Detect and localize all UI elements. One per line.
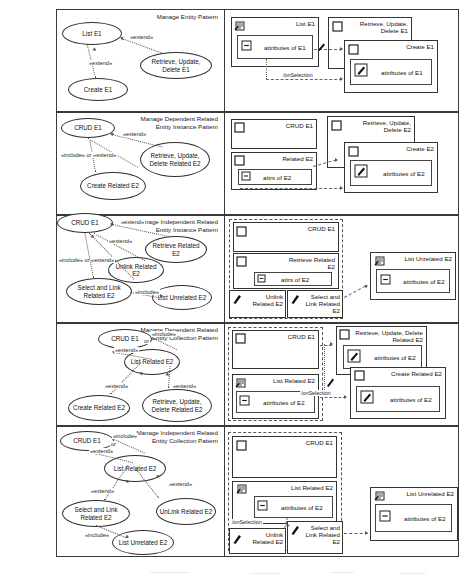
- relation-label-text: or: [111, 441, 116, 447]
- usecase-crud-e1[interactable]: CRUD E1: [61, 118, 115, 138]
- edit-icon[interactable]: [347, 349, 361, 363]
- window-title: Create Related E2: [391, 370, 442, 377]
- checkbox-icon[interactable]: [354, 370, 365, 381]
- usecase-list-unrelated-e2[interactable]: List Unrelated E2: [112, 530, 174, 555]
- relation-label-include: «include»: [84, 532, 110, 538]
- relation-label-text: «include»: [152, 331, 176, 337]
- relation-label-text: «extend»: [123, 131, 146, 137]
- row-2-caption-line1: Manage Dependent Related: [141, 115, 218, 122]
- window-title: Retrieve Related E2: [287, 256, 335, 270]
- field-label: attributes of E2: [403, 278, 445, 285]
- collapse-icon[interactable]: [380, 274, 391, 285]
- checkbox-icon[interactable]: [234, 155, 245, 166]
- edit-icon[interactable]: [354, 164, 368, 178]
- arrow-head: [340, 77, 343, 81]
- window-title: Select and Link Related E2: [304, 524, 340, 546]
- row-1-caption-line1: Manage Entity Pattern: [157, 13, 218, 20]
- usecase-label: CRUD E1: [71, 219, 99, 226]
- relation-label-extend: «extend»: [120, 219, 145, 225]
- usecase-retrieve-update-delete-e1[interactable]: Retrieve, Update, Delete E1: [140, 52, 212, 79]
- usecase-select-and-link-related-e2[interactable]: Select and Link Related E2: [66, 278, 132, 305]
- collapse-icon[interactable]: [379, 510, 391, 522]
- checkbox-icon[interactable]: [348, 146, 359, 157]
- usecase-create-related-e2[interactable]: Create Related E2: [68, 395, 130, 421]
- usecase-label: UnLink Related E2: [160, 508, 213, 515]
- relation-label-text: «extend»: [121, 219, 144, 225]
- usecase-select-and-link-related-e2[interactable]: Select and Link Related E2: [62, 500, 130, 527]
- field-label: attributes of E1: [264, 44, 306, 51]
- relation-label-text: «extend»: [90, 448, 113, 454]
- row-1-caption: Manage Entity Pattern: [120, 13, 218, 21]
- checkbox-icon[interactable]: [236, 226, 247, 237]
- checkbox-icon[interactable]: [236, 256, 247, 267]
- collapse-icon[interactable]: [241, 40, 252, 51]
- field-label: attrs of E2: [281, 276, 309, 283]
- onselection-label: /onSelection: [231, 519, 263, 525]
- usecase-label: CRUD E1: [111, 335, 139, 342]
- arrow-head: [340, 186, 343, 190]
- checkbox-icon[interactable]: [236, 440, 247, 451]
- edit-icon: [232, 293, 242, 304]
- relation-label-text: «extend»: [91, 488, 114, 494]
- field-label: attributes of E2: [390, 396, 432, 403]
- usecase-create-e1[interactable]: Create E1: [68, 78, 128, 101]
- window-title: List Related E2: [291, 484, 333, 491]
- usecase-label: Retrieve, Update, Delete Related E2: [143, 152, 207, 167]
- collapse-icon[interactable]: [239, 395, 250, 406]
- checkbox-icon[interactable]: [332, 21, 343, 32]
- collapse-icon[interactable]: [257, 274, 266, 283]
- usecase-label: Select and Link Related E2: [65, 506, 127, 521]
- arrow-head: [165, 372, 169, 375]
- usecase-list-e1[interactable]: List E1: [62, 22, 122, 45]
- arrow-head: [365, 531, 368, 535]
- row-1-divider: [224, 9, 225, 112]
- flow-list-to-rud-h: [320, 345, 332, 346]
- window-title: Unlink Related E2: [247, 293, 283, 307]
- checkbox-icon[interactable]: [234, 122, 245, 133]
- checkbox-icon[interactable]: [235, 333, 246, 344]
- window-crud-e1[interactable]: CRUD E1: [232, 436, 337, 478]
- arrow-head: [160, 294, 163, 298]
- row-5-caption-line1: Manage Independent Related: [136, 429, 218, 436]
- usecase-retrieve-related-e2[interactable]: Retrieve Related E2: [145, 236, 207, 263]
- usecase-label: Create Related E2: [73, 404, 125, 411]
- collapse-icon[interactable]: [241, 171, 251, 181]
- usecase-crud-e1[interactable]: CRUD E1: [57, 213, 113, 233]
- field-label: attrs of E2: [263, 174, 291, 181]
- relation-label-or: or: [143, 338, 150, 344]
- usecase-retrieve-update-delete-related-e2[interactable]: Retrieve, Update, Delete Related E2: [142, 389, 212, 422]
- relation-label-include: «include»: [134, 289, 160, 295]
- scan-artifact: [250, 573, 280, 574]
- checkbox-icon[interactable]: [339, 329, 350, 340]
- relation-label-text: «include»: [85, 532, 109, 538]
- relation-label-or: or: [110, 441, 117, 447]
- relation-label-extend: «extend»: [90, 488, 115, 494]
- usecase-label: List Unrelated E2: [119, 539, 167, 546]
- window-title: Unlink Related E2: [247, 531, 283, 545]
- figure-sheet: Manage Entity Pattern List E1 Retrieve, …: [0, 0, 469, 580]
- row-5-caption-line2: Entity Collection Pattern: [152, 437, 218, 444]
- arrow-head: [335, 158, 338, 162]
- arrow-head: [340, 47, 343, 51]
- window-title: CRUD E1: [308, 225, 335, 232]
- usecase-create-related-e2[interactable]: Create Related E2: [80, 172, 146, 200]
- field-label: attributes of E2: [281, 504, 323, 511]
- row-5-divider: [224, 426, 225, 557]
- window-crud-e1[interactable]: CRUD E1: [233, 222, 339, 252]
- relation-label-text: or: [144, 338, 149, 344]
- onselection-flow: [266, 59, 267, 79]
- relation-label-extend: «extend»: [172, 383, 197, 389]
- usecase-unlink-related-e2[interactable]: UnLink Related E2: [156, 498, 216, 525]
- edit-icon[interactable]: [360, 390, 374, 404]
- checkbox-icon[interactable]: [331, 120, 342, 131]
- edit-icon[interactable]: [354, 63, 368, 77]
- list-icon: [374, 256, 385, 266]
- edit-icon: [326, 377, 335, 387]
- scan-artifact: [330, 572, 354, 573]
- checkbox-icon[interactable]: [348, 44, 359, 55]
- flow-list-to-rud: [324, 344, 325, 396]
- collapse-icon[interactable]: [257, 500, 268, 511]
- relation-label-text: «extend»: [89, 60, 112, 66]
- flow-onselection-h: [320, 397, 346, 398]
- usecase-retrieve-update-delete-related-e2[interactable]: Retrieve, Update, Delete Related E2: [140, 142, 210, 177]
